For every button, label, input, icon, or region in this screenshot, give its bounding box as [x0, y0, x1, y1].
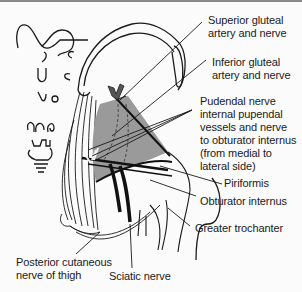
label-inferior-gluteal: Inferior gluteal artery and nerve [212, 56, 291, 82]
label-sciatic: Sciatic nerve [109, 270, 171, 283]
gluteal-anatomy-diagram: Superior gluteal artery and nerve Inferi… [0, 0, 302, 292]
label-superior-gluteal: Superior gluteal artery and nerve [208, 14, 287, 40]
label-posterior-cutaneous: Posterior cutaneous nerve of thigh [16, 256, 112, 282]
sacrum-outline [17, 25, 88, 172]
label-piriformis: Piriformis [224, 177, 269, 190]
label-obturator-internus: Obturator internus [200, 195, 287, 208]
label-greater-trochanter: Greater trochanter [195, 222, 283, 235]
label-pudendal: Pudendal nerve internal pupendal vessels… [200, 95, 296, 173]
superior-gluteal-vessel-mark [108, 84, 126, 100]
